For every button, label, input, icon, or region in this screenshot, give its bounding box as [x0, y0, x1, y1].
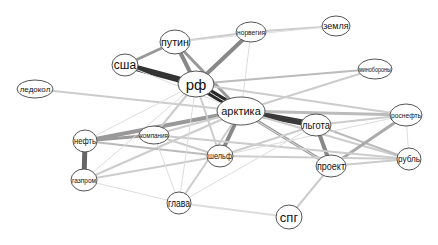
node-label: рф	[186, 76, 207, 93]
node-shelf: шельф	[207, 145, 233, 167]
edge-gazprom-shelf	[84, 156, 220, 180]
node-label: роснефть	[391, 111, 421, 120]
edge-gazprom-glava	[84, 180, 179, 203]
edge-glava-spg	[179, 203, 289, 217]
node-ledokol: ледокол	[17, 80, 53, 98]
node-label: ледокол	[20, 85, 51, 94]
node-label: норвегия	[237, 28, 265, 37]
node-label: газпром	[72, 176, 96, 185]
node-label: минобороны	[359, 66, 391, 74]
network-graph: рфарктикасшапутиннорвегияземляминобороны…	[0, 0, 438, 245]
node-rubl: рубль	[397, 148, 421, 170]
node-rf: рф	[178, 71, 214, 97]
node-arktika: арктика	[217, 97, 265, 125]
node-spg: спг	[276, 205, 302, 229]
node-norvegia: норвегия	[236, 22, 266, 42]
node-zemlya: земля	[322, 16, 350, 36]
node-label: шельф	[208, 151, 232, 161]
node-putin: путин	[160, 30, 190, 54]
edge-glava-lgota	[179, 125, 316, 203]
node-label: путин	[161, 36, 189, 48]
node-lgota: льгота	[301, 114, 331, 136]
node-label: земля	[323, 21, 348, 31]
node-label: рубль	[398, 154, 420, 164]
node-ssha: сша	[112, 54, 138, 76]
node-label: сша	[114, 58, 137, 72]
node-kompania: компания	[139, 126, 169, 144]
node-glava: глава	[167, 192, 191, 214]
node-label: арктика	[221, 105, 261, 117]
node-label: спг	[280, 210, 299, 225]
node-minoborony: минобороны	[358, 59, 392, 79]
node-proekt: проект	[316, 155, 346, 177]
node-label: льгота	[302, 120, 330, 131]
nodes-layer: рфарктикасшапутиннорвегияземляминобороны…	[17, 16, 422, 229]
node-rosneft: роснефть	[390, 104, 422, 126]
node-label: компания	[140, 132, 168, 139]
node-label: нефть	[74, 136, 96, 146]
node-gazprom: газпром	[71, 169, 97, 191]
node-label: глава	[168, 198, 190, 209]
node-neft: нефть	[73, 130, 97, 152]
node-label: проект	[317, 161, 345, 172]
